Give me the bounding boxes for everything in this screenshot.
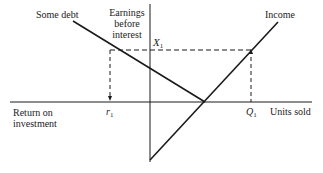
- r1-arrow-icon: [108, 96, 112, 101]
- some-debt-label: Some debt: [36, 9, 79, 20]
- income-line: [150, 22, 278, 160]
- q1-label: Q1: [246, 106, 257, 119]
- return-on-investment-label-line2: investment: [13, 118, 57, 129]
- earnings-label-line3: interest: [112, 29, 142, 40]
- income-label: Income: [265, 9, 296, 20]
- ebit-diagram: Some debt Earnings before interest Incom…: [0, 0, 323, 173]
- units-sold-label: Units sold: [270, 106, 311, 117]
- earnings-label-line1: Earnings: [109, 7, 145, 18]
- return-on-investment-label-line1: Return on: [13, 107, 53, 118]
- x1-label: X1: [152, 36, 164, 50]
- r1-label: r1: [106, 106, 114, 119]
- earnings-label-line2: before: [114, 18, 140, 29]
